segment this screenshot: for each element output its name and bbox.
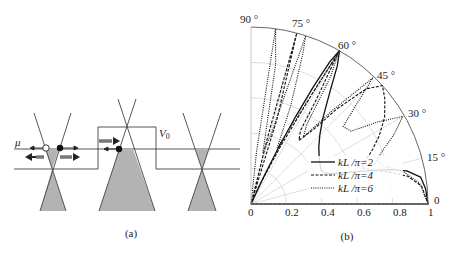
radial-label-1: 1 [428,206,434,218]
angle-label-30: 30 ° [408,107,426,119]
radial-label-0.4: 0.4 [321,206,335,218]
angle-label-0: 0 [434,194,440,206]
legend-label-kl2: kL /π=2 [338,156,374,168]
electron-state-marker [57,145,63,151]
angle-label-45: 45 ° [377,69,395,81]
panel-b-caption: (b) [341,230,354,243]
angle-label-90: 90 ° [240,13,258,25]
angle-label-60: 60 ° [338,39,356,51]
panel-a-caption: (a) [125,227,138,240]
legend-label-kl6: kL /π=6 [338,182,374,194]
radial-label-0.2: 0.2 [285,206,299,218]
radial-label-0: 0 [248,206,254,218]
figure: μ V0 (a) 90 ° 75 ° 60 ° 45 ° 30 ° 15 ° 0… [0,0,455,255]
dirac-cone-middle [99,99,155,211]
angle-label-75: 75 ° [292,17,310,29]
radial-label-0.8: 0.8 [393,206,407,218]
panel-b: 90 ° 75 ° 60 ° 45 ° 30 ° 15 ° 0 0 0.2 0.… [240,13,445,243]
v0-label: V0 [159,127,170,141]
angle-label-15: 15 ° [427,151,445,163]
dirac-cone-left [34,113,71,211]
legend-label-kl4: kL /π=4 [338,169,374,181]
transmitted-state-marker [116,146,122,152]
radial-label-0.6: 0.6 [357,206,371,218]
panel-a: μ V0 (a) [14,99,240,240]
dirac-cone-right [183,113,221,211]
legend: kL /π=2 kL /π=4 kL /π=6 [308,156,403,198]
mu-label: μ [14,136,21,148]
hole-state-marker [43,145,49,151]
